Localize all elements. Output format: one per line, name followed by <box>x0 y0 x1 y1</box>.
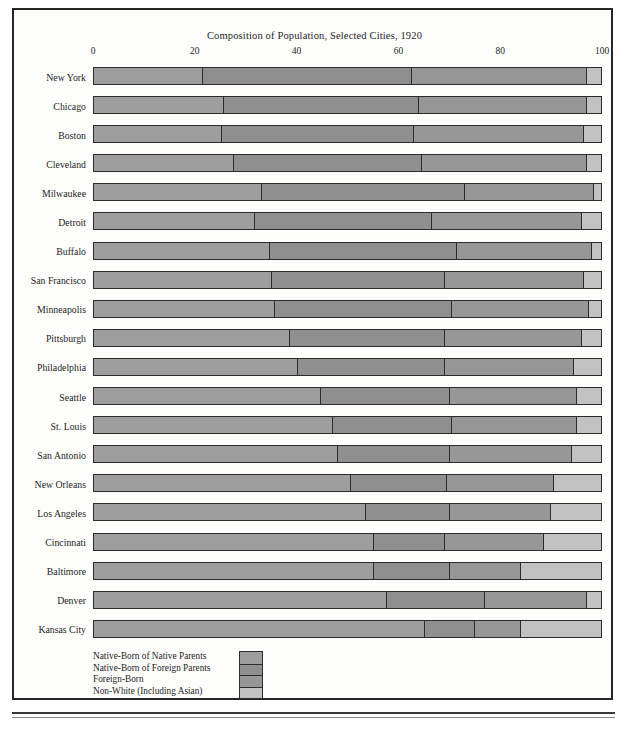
bar-segment[interactable] <box>431 213 581 229</box>
bar-segment[interactable] <box>94 213 254 229</box>
bar-segment[interactable] <box>444 330 581 346</box>
bar-segment[interactable] <box>297 359 444 375</box>
stacked-bar[interactable] <box>93 212 602 230</box>
bar-segment[interactable] <box>254 213 431 229</box>
bar-segment[interactable] <box>386 592 485 608</box>
bar-segment[interactable] <box>94 330 289 346</box>
bar-segment[interactable] <box>94 184 261 200</box>
bar-segment[interactable] <box>94 301 274 317</box>
bar-segment[interactable] <box>94 272 271 288</box>
bar-segment[interactable] <box>553 475 601 491</box>
bar-segment[interactable] <box>520 621 601 637</box>
bar-segment[interactable] <box>543 534 601 550</box>
stacked-bar[interactable] <box>93 474 602 492</box>
bar-segment[interactable] <box>94 592 386 608</box>
bar-segment[interactable] <box>271 272 443 288</box>
bar-segment[interactable] <box>94 155 233 171</box>
bar-segment[interactable] <box>586 155 601 171</box>
bar-segment[interactable] <box>576 388 601 404</box>
bar-segment[interactable] <box>94 126 221 142</box>
bar-segment[interactable] <box>573 359 601 375</box>
stacked-bar[interactable] <box>93 271 602 289</box>
bar-segment[interactable] <box>94 534 373 550</box>
bar-segment[interactable] <box>484 592 585 608</box>
bar-segment[interactable] <box>444 272 583 288</box>
stacked-bar[interactable] <box>93 533 602 551</box>
bar-segment[interactable] <box>223 97 418 113</box>
stacked-bar[interactable] <box>93 242 602 260</box>
bar-segment[interactable] <box>588 301 601 317</box>
bar-segment[interactable] <box>550 504 601 520</box>
bar-segment[interactable] <box>449 388 576 404</box>
bar-segment[interactable] <box>94 388 320 404</box>
bar-segment[interactable] <box>586 97 601 113</box>
bar-segment[interactable] <box>424 621 475 637</box>
bar-segment[interactable] <box>413 126 583 142</box>
stacked-bar[interactable] <box>93 591 602 609</box>
bar-segment[interactable] <box>581 213 601 229</box>
bar-segment[interactable] <box>586 68 601 84</box>
bar-segment[interactable] <box>421 155 586 171</box>
bar-segment[interactable] <box>583 126 601 142</box>
bar-segment[interactable] <box>261 184 464 200</box>
bar-segment[interactable] <box>581 330 601 346</box>
bar-segment[interactable] <box>94 417 332 433</box>
stacked-bar[interactable] <box>93 503 602 521</box>
stacked-bar[interactable] <box>93 358 602 376</box>
bar-segment[interactable] <box>269 243 457 259</box>
bar-segment[interactable] <box>233 155 421 171</box>
stacked-bar[interactable] <box>93 329 602 347</box>
stacked-bar[interactable] <box>93 67 602 85</box>
stacked-bar[interactable] <box>93 620 602 638</box>
stacked-bar[interactable] <box>93 96 602 114</box>
bar-segment[interactable] <box>444 534 543 550</box>
bar-segment[interactable] <box>474 621 520 637</box>
bar-segment[interactable] <box>94 68 202 84</box>
bar-segment[interactable] <box>571 446 601 462</box>
stacked-bar[interactable] <box>93 445 602 463</box>
stacked-bar[interactable] <box>93 300 602 318</box>
bar-segment[interactable] <box>332 417 451 433</box>
bar-segment[interactable] <box>94 359 297 375</box>
bar-segment[interactable] <box>94 475 350 491</box>
bar-segment[interactable] <box>94 504 365 520</box>
bar-segment[interactable] <box>373 534 444 550</box>
bar-segment[interactable] <box>320 388 449 404</box>
stacked-bar[interactable] <box>93 154 602 172</box>
stacked-bar[interactable] <box>93 387 602 405</box>
bar-segment[interactable] <box>520 563 601 579</box>
bar-segment[interactable] <box>274 301 451 317</box>
bar-segment[interactable] <box>94 446 337 462</box>
bar-segment[interactable] <box>94 621 424 637</box>
bar-segment[interactable] <box>583 272 601 288</box>
bar-segment[interactable] <box>451 417 575 433</box>
bar-segment[interactable] <box>350 475 446 491</box>
bar-segment[interactable] <box>586 592 601 608</box>
bar-segment[interactable] <box>591 243 601 259</box>
bar-segment[interactable] <box>365 504 449 520</box>
bar-segment[interactable] <box>94 97 223 113</box>
bar-segment[interactable] <box>418 97 585 113</box>
bar-segment[interactable] <box>411 68 586 84</box>
bar-segment[interactable] <box>373 563 449 579</box>
bar-segment[interactable] <box>449 563 520 579</box>
bar-segment[interactable] <box>94 243 269 259</box>
bar-segment[interactable] <box>449 504 550 520</box>
bar-segment[interactable] <box>464 184 593 200</box>
stacked-bar[interactable] <box>93 562 602 580</box>
bar-segment[interactable] <box>446 475 552 491</box>
bar-segment[interactable] <box>444 359 573 375</box>
bar-segment[interactable] <box>202 68 410 84</box>
bar-segment[interactable] <box>449 446 571 462</box>
bar-segment[interactable] <box>94 563 373 579</box>
bar-segment[interactable] <box>593 184 601 200</box>
stacked-bar[interactable] <box>93 183 602 201</box>
stacked-bar[interactable] <box>93 416 602 434</box>
bar-segment[interactable] <box>221 126 414 142</box>
bar-segment[interactable] <box>456 243 590 259</box>
bar-segment[interactable] <box>289 330 444 346</box>
stacked-bar[interactable] <box>93 125 602 143</box>
bar-segment[interactable] <box>337 446 449 462</box>
bar-segment[interactable] <box>451 301 588 317</box>
bar-segment[interactable] <box>576 417 601 433</box>
